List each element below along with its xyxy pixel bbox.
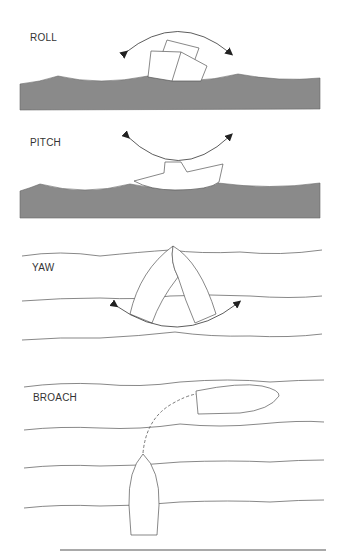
yaw-wave-3 bbox=[22, 332, 322, 340]
broach-wave-1 bbox=[24, 380, 324, 387]
broach-wave-4 bbox=[24, 500, 324, 508]
roll-label: ROLL bbox=[30, 32, 57, 43]
broach-wave-3 bbox=[24, 460, 324, 468]
pitch-arrow-icon bbox=[127, 136, 230, 161]
broach-boat-after bbox=[196, 385, 279, 414]
broach-wave-2 bbox=[24, 421, 324, 430]
pitch-label: PITCH bbox=[30, 137, 61, 148]
broach-panel bbox=[24, 380, 324, 535]
yaw-boat-left bbox=[130, 246, 178, 323]
boat-motion-diagram bbox=[0, 0, 338, 554]
roll-boat-icon bbox=[148, 40, 207, 81]
yaw-panel bbox=[22, 246, 322, 340]
yaw-boat-right bbox=[172, 246, 216, 323]
broach-track-icon bbox=[143, 394, 196, 453]
broach-boat-before bbox=[129, 454, 159, 535]
roll-panel bbox=[20, 32, 320, 111]
pitch-boat-icon bbox=[134, 162, 223, 190]
pitch-panel bbox=[20, 136, 320, 218]
yaw-label: YAW bbox=[32, 262, 54, 273]
broach-label: BROACH bbox=[33, 392, 77, 403]
yaw-wave-2 bbox=[22, 295, 322, 301]
